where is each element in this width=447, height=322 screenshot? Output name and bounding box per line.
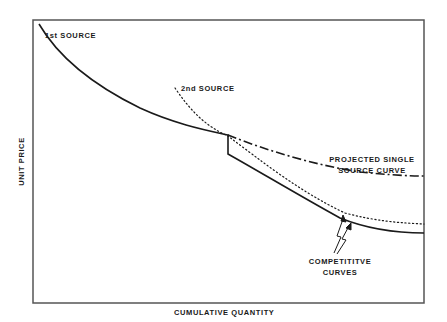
x-axis-label: CUMULATIVE QUANTITY: [174, 308, 274, 317]
competitive-curves-label-line1: COMPETITITVE: [296, 256, 384, 267]
projected-curve-label-line2: SOURCE CURVE: [326, 165, 418, 176]
competitive-curves-label-line2: CURVES: [296, 267, 384, 278]
first-source-label: 1st SOURCE: [45, 31, 96, 40]
y-axis-label: UNIT PRICE: [17, 132, 26, 192]
first-source-curve: [39, 24, 424, 233]
projected-curve-label: PROJECTED SINGLE SOURCE CURVE: [326, 154, 418, 176]
projected-curve-label-line1: PROJECTED SINGLE: [326, 154, 418, 165]
second-source-label: 2nd SOURCE: [181, 84, 235, 93]
competitive-curves-label: COMPETITITVE CURVES: [296, 256, 384, 278]
